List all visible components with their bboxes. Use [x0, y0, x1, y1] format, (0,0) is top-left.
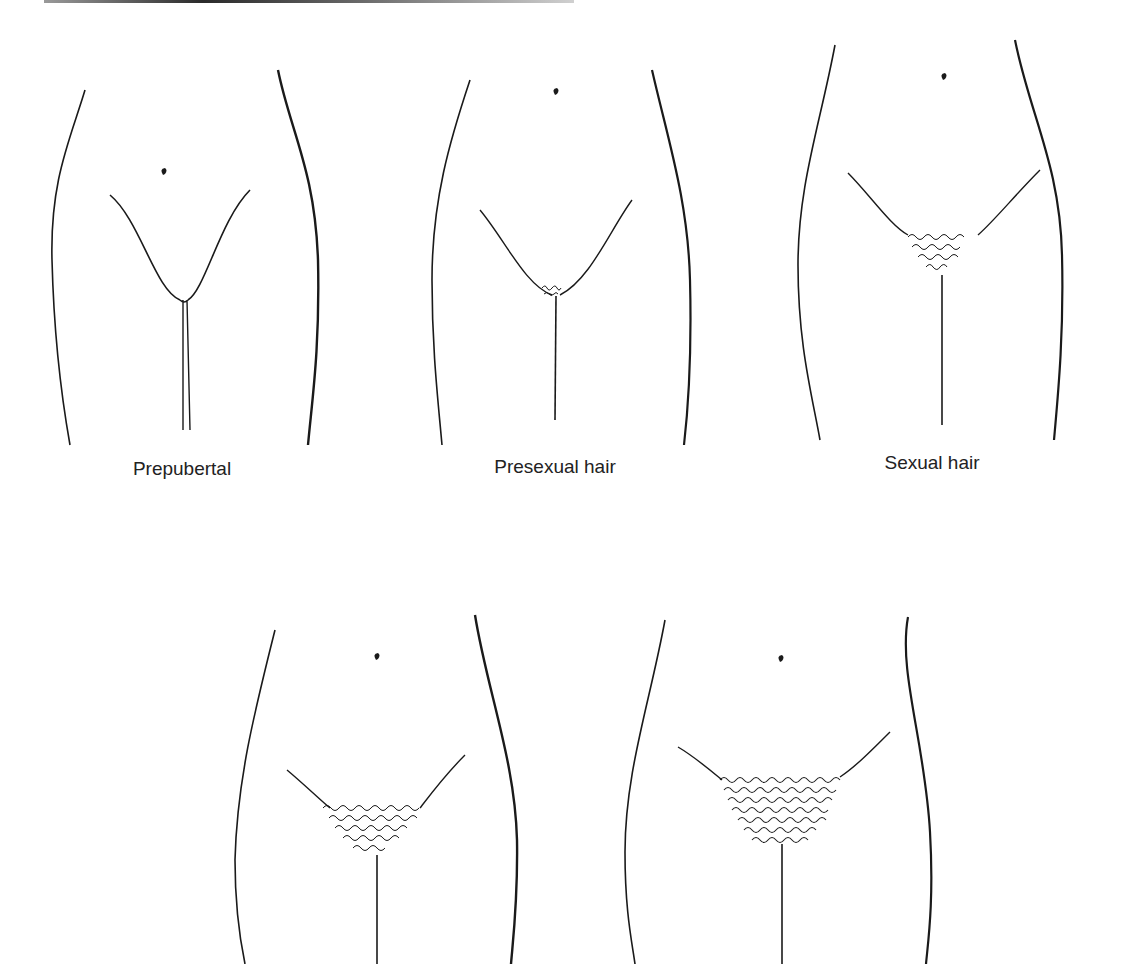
hair-region: [720, 778, 840, 843]
navel-icon: [778, 655, 783, 662]
body-outline-icon: [420, 50, 710, 450]
figure-stage-1: [40, 60, 330, 450]
stage-label: Prepubertal: [133, 458, 231, 480]
hair-region: [908, 235, 964, 270]
body-outline-icon: [40, 60, 330, 450]
figure-stage-2: [420, 50, 710, 450]
figure-stage-3: [790, 35, 1090, 445]
figure-stage-5: [620, 612, 940, 964]
stage-label: Presexual hair: [494, 456, 615, 478]
body-outline-icon: [790, 35, 1090, 445]
navel-icon: [553, 88, 558, 95]
hair-region: [323, 806, 419, 851]
navel-icon: [941, 73, 946, 80]
navel-icon: [374, 653, 379, 660]
navel-icon: [161, 168, 166, 175]
body-outline-icon: [225, 610, 535, 964]
body-outline-icon: [620, 612, 940, 964]
stage-label: Sexual hair: [884, 452, 979, 474]
figure-stage-4: [225, 610, 535, 964]
header-rule: [44, 0, 574, 3]
